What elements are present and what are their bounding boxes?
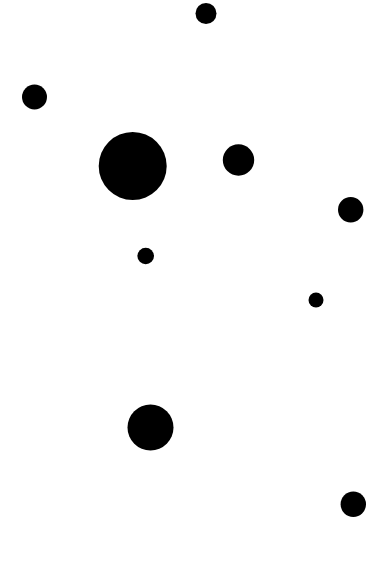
dot-6 bbox=[137, 248, 154, 265]
dot-3 bbox=[99, 132, 167, 200]
dot-8 bbox=[128, 405, 174, 451]
dot-2 bbox=[22, 85, 47, 110]
dot-canvas bbox=[0, 0, 384, 563]
dot-1 bbox=[196, 3, 217, 24]
dot-7 bbox=[309, 293, 324, 308]
dot-5 bbox=[338, 197, 363, 222]
dot-4 bbox=[223, 144, 254, 175]
background bbox=[0, 0, 384, 563]
dot-9 bbox=[341, 492, 366, 517]
